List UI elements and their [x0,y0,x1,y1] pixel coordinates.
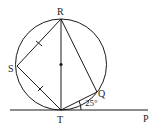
center-dot [59,63,62,66]
equal-mark-st [38,86,43,91]
angle-label: 25° [85,98,98,108]
segment-st [17,66,61,110]
label-s: S [8,63,14,74]
segment-rq [61,19,97,92]
label-p: P [143,113,149,124]
label-q: Q [98,88,106,99]
circle-tangent-diagram: R S T Q P 25° [0,0,156,128]
segment-rs [17,19,61,66]
label-r: R [57,6,64,17]
label-t: T [57,114,63,125]
